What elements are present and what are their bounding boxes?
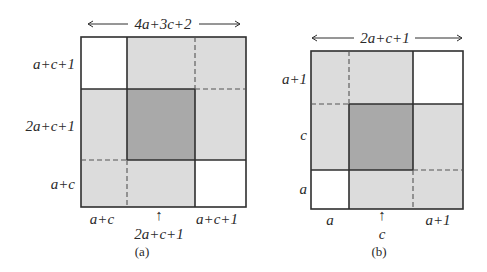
caption-a: (a) <box>135 244 149 259</box>
row-label: a+c <box>51 176 76 192</box>
width-label: 4a+3c+2 <box>135 16 192 32</box>
dark-center-square <box>127 89 195 160</box>
col-label: a <box>326 212 334 228</box>
white-square-top-right <box>413 51 463 104</box>
up-arrow-icon: ↑ <box>155 207 163 223</box>
row-label: c <box>300 127 307 143</box>
width-label: 2a+c+1 <box>360 30 409 46</box>
row-label: a <box>300 181 308 197</box>
col-label: c <box>379 226 386 242</box>
row-label: a+c+1 <box>33 56 75 72</box>
caption-b: (b) <box>371 244 386 259</box>
dark-center-square <box>349 104 413 170</box>
row-label: 2a+c+1 <box>26 118 75 134</box>
diagram-canvas: 4a+3c+2 a+c+1 2a+c+1 a+c a+c ↑ 2a+c+1 a+… <box>0 0 487 272</box>
col-label: a+1 <box>425 212 450 228</box>
col-label: a+c <box>90 211 115 227</box>
col-label: 2a+c+1 <box>134 226 183 242</box>
white-square-bottom-left <box>311 170 349 209</box>
white-square-bottom-right <box>195 160 246 207</box>
up-arrow-icon: ↑ <box>378 207 386 223</box>
figure-b: 2a+c+1 a+1 c a a ↑ c a+1 (b) <box>282 30 463 259</box>
col-label: a+c+1 <box>196 211 238 227</box>
figure-a: 4a+3c+2 a+c+1 2a+c+1 a+c a+c ↑ 2a+c+1 a+… <box>26 16 246 259</box>
row-label: a+1 <box>282 71 307 87</box>
white-square-top-left <box>81 37 127 89</box>
